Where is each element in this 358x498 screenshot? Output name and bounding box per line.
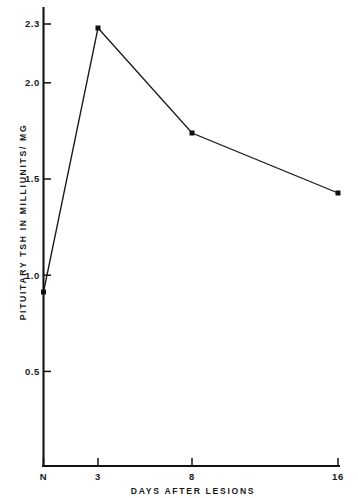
x-tick-label-3: 3 <box>95 471 101 482</box>
x-axis-ticks <box>44 458 339 465</box>
data-markers <box>41 26 341 295</box>
data-point-n <box>41 290 46 295</box>
data-point-16 <box>336 191 341 196</box>
y-axis-ticks <box>44 24 51 371</box>
tsh-series-line <box>44 28 339 292</box>
data-point-3 <box>96 26 101 31</box>
chart-figure: 2.3 2.0 1.5 1.0 0.5 N 3 8 16 DAYS AFTER … <box>0 0 358 498</box>
data-point-8 <box>190 131 195 136</box>
x-tick-label-n: N <box>40 471 47 482</box>
x-tick-label-8: 8 <box>189 471 195 482</box>
x-tick-label-16: 16 <box>332 471 344 482</box>
line-chart: 2.3 2.0 1.5 1.0 0.5 N 3 8 16 DAYS AFTER … <box>0 0 358 498</box>
y-tick-label-0-5: 0.5 <box>25 366 40 377</box>
y-tick-label-2-3: 2.3 <box>25 18 40 29</box>
x-axis-title: DAYS AFTER LESIONS <box>131 486 256 496</box>
y-tick-label-2-0: 2.0 <box>25 77 40 88</box>
y-axis-title: PITUITARY TSH IN MILLIUNITS/ MG <box>18 124 28 321</box>
